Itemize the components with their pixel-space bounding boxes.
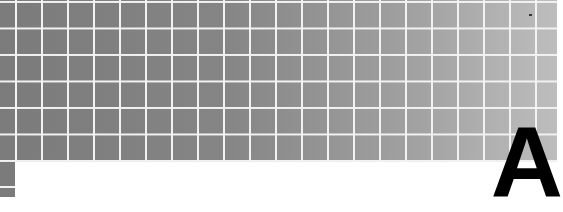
- grid-horizontal-lines: [0, 0, 557, 162]
- speck-mark: [529, 14, 532, 16]
- chapter-letter: A: [491, 112, 563, 212]
- left-strip-grid-line: [0, 186, 15, 188]
- left-tile-strip: [0, 162, 15, 197]
- gradient-tile-grid: [0, 0, 557, 162]
